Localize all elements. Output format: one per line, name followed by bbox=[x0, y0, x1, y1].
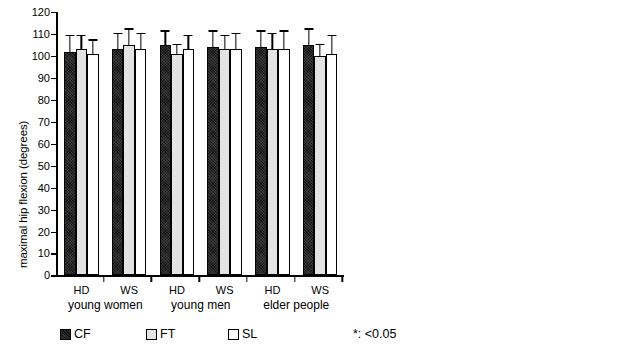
x-axis-category-label: HD bbox=[74, 284, 90, 296]
error-bar bbox=[165, 32, 166, 45]
error-bar bbox=[129, 30, 130, 45]
bar-ft bbox=[123, 45, 134, 275]
x-axis-group-label: young men bbox=[171, 298, 230, 312]
bar-sl bbox=[326, 54, 337, 276]
tick-mark bbox=[51, 232, 56, 233]
bar-group bbox=[58, 12, 106, 275]
y-tick-label: 110 bbox=[32, 28, 50, 39]
error-bar-cap bbox=[256, 30, 265, 31]
error-bar bbox=[188, 36, 189, 49]
tick-mark bbox=[51, 210, 56, 211]
error-bar bbox=[308, 30, 309, 45]
x-axis-category-label: WS bbox=[216, 284, 234, 296]
bar-group-container-hip bbox=[58, 12, 344, 275]
bar-group bbox=[153, 12, 201, 275]
error-bar-cap bbox=[220, 35, 229, 36]
bar-sl bbox=[87, 54, 98, 276]
x-tick-mark bbox=[151, 277, 152, 282]
x-tick-mark bbox=[198, 277, 199, 282]
error-bar-cap bbox=[113, 33, 122, 34]
y-tick-label: 30 bbox=[38, 204, 50, 215]
tick-mark bbox=[51, 122, 56, 123]
significance-note: *: <0.05 bbox=[353, 327, 396, 341]
error-bar-cap bbox=[161, 30, 170, 31]
error-bar bbox=[272, 34, 273, 49]
tick-mark bbox=[51, 12, 56, 13]
legend-label: FT bbox=[160, 327, 175, 341]
tick-mark bbox=[51, 100, 56, 101]
error-bar bbox=[140, 34, 141, 49]
error-bar bbox=[176, 45, 177, 54]
error-bar-cap bbox=[66, 35, 75, 36]
error-bar-cap bbox=[316, 44, 325, 45]
tick-mark bbox=[51, 144, 56, 145]
error-bar-cap bbox=[172, 44, 181, 45]
x-axis-category-label: WS bbox=[120, 284, 138, 296]
bar-sl bbox=[278, 49, 289, 275]
error-bar-cap bbox=[209, 30, 218, 31]
y-tick-label: 20 bbox=[38, 226, 50, 237]
legend-label: SL bbox=[242, 327, 257, 341]
tick-mark bbox=[51, 188, 56, 189]
error-bar-cap bbox=[304, 28, 313, 29]
bar-ft bbox=[219, 49, 230, 275]
tick-mark bbox=[51, 275, 56, 276]
error-bar bbox=[117, 34, 118, 49]
tick-mark bbox=[51, 253, 56, 254]
bar-sl bbox=[183, 49, 194, 275]
legend-swatch-cf bbox=[60, 329, 71, 340]
x-axis-group-label: elder people bbox=[263, 298, 329, 312]
bar-cf bbox=[112, 49, 123, 275]
x-axis-line-hip bbox=[56, 275, 344, 277]
legend-item-CF: CF bbox=[60, 327, 91, 341]
error-bar-cap bbox=[268, 33, 277, 34]
legend-item-SL: SL bbox=[228, 327, 257, 341]
error-bar bbox=[331, 36, 332, 54]
x-axis-category-label: WS bbox=[311, 284, 329, 296]
error-bar-cap bbox=[279, 30, 288, 31]
x-axis-category-label: HD bbox=[169, 284, 185, 296]
bar-group bbox=[105, 12, 153, 275]
bar-group bbox=[296, 12, 344, 275]
error-bar-cap bbox=[184, 35, 193, 36]
bar-cf bbox=[160, 45, 171, 275]
chart-panel-knee-flexion: maximal knee flexion (degrees) 010203040… bbox=[470, 0, 628, 348]
tick-mark bbox=[51, 56, 56, 57]
error-bar-cap bbox=[327, 35, 336, 36]
figure-root: maximal hip flexion (degrees) 0102030405… bbox=[0, 0, 628, 348]
error-bar-cap bbox=[88, 39, 97, 40]
y-axis-title-hip: maximal hip flexion (degrees) bbox=[17, 121, 29, 268]
error-bar bbox=[69, 36, 70, 51]
legend-swatch-sl bbox=[228, 329, 239, 340]
bar-ft bbox=[171, 54, 182, 276]
y-tick-label: 90 bbox=[38, 72, 50, 83]
x-tick-mark bbox=[342, 277, 343, 282]
x-tick-mark bbox=[294, 277, 295, 282]
bar-sl bbox=[230, 49, 241, 275]
y-tick-label: 50 bbox=[38, 160, 50, 171]
x-tick-mark bbox=[103, 277, 104, 282]
error-bar bbox=[319, 45, 320, 56]
legend-item-FT: FT bbox=[146, 327, 175, 341]
bar-cf bbox=[255, 47, 266, 275]
error-bar bbox=[92, 41, 93, 54]
bar-cf bbox=[207, 47, 218, 275]
bar-group bbox=[249, 12, 297, 275]
y-tick-label: 40 bbox=[38, 182, 50, 193]
error-bar bbox=[81, 36, 82, 49]
x-axis-category-label: HD bbox=[264, 284, 280, 296]
tick-mark bbox=[51, 166, 56, 167]
error-bar bbox=[224, 36, 225, 49]
error-bar-cap bbox=[77, 35, 86, 36]
bar-cf bbox=[303, 45, 314, 275]
error-bar bbox=[283, 32, 284, 50]
y-tick-label: 60 bbox=[38, 138, 50, 149]
error-bar-cap bbox=[232, 33, 241, 34]
y-tick-label: 10 bbox=[38, 248, 50, 259]
x-tick-mark bbox=[246, 277, 247, 282]
tick-mark bbox=[51, 78, 56, 79]
error-bar-cap bbox=[136, 33, 145, 34]
x-axis-group-label: young women bbox=[68, 298, 143, 312]
y-tick-label: 80 bbox=[38, 94, 50, 105]
bar-cf bbox=[64, 52, 75, 276]
